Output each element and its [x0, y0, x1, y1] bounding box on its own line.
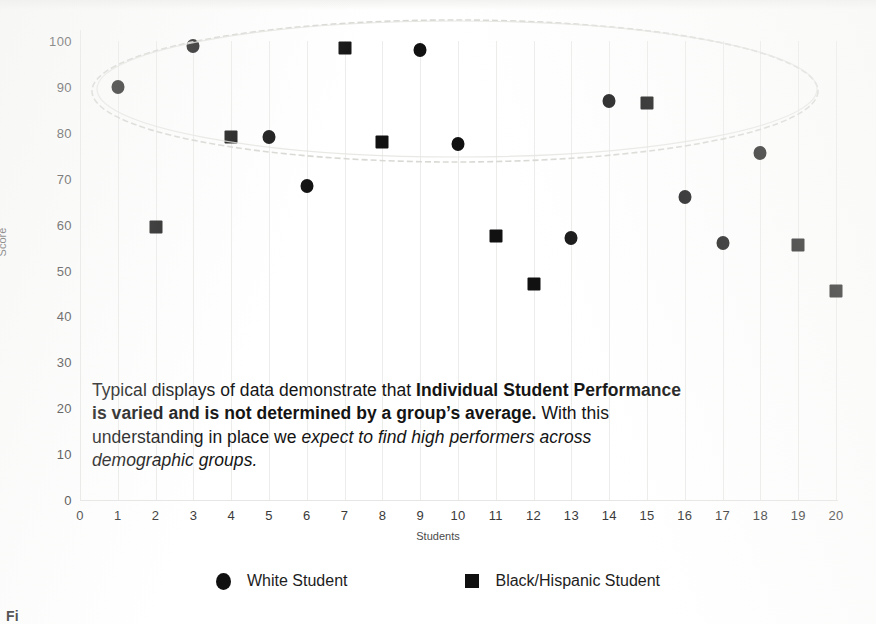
- x-tick-label: 8: [379, 508, 387, 523]
- y-tick-label: 70: [26, 171, 72, 186]
- x-tick-label: 1: [114, 508, 122, 523]
- figure-caption: Fi: [6, 608, 19, 624]
- scatter-chart: 1009080706050403020100 01234567891011121…: [0, 0, 876, 560]
- data-point-square: [527, 278, 540, 291]
- x-tick-label: 7: [341, 508, 349, 523]
- x-tick-label: 0: [76, 508, 84, 523]
- data-point-square: [376, 135, 389, 148]
- y-tick-label: 20: [26, 401, 72, 416]
- y-tick-label: 100: [26, 34, 72, 49]
- x-tick-label: 20: [828, 508, 843, 523]
- gridline-vertical: [836, 41, 837, 500]
- x-tick-label: 10: [450, 508, 465, 523]
- legend-label-white-student: White Student: [247, 572, 348, 590]
- y-tick-label: 30: [26, 355, 72, 370]
- x-tick-label: 11: [489, 508, 503, 523]
- x-tick-label: 17: [715, 508, 730, 523]
- y-tick-label: 10: [26, 447, 72, 462]
- y-tick-label: 80: [26, 125, 72, 140]
- data-point-circle: [300, 179, 313, 193]
- y-axis-title: Score: [0, 228, 8, 257]
- x-tick-label: 19: [791, 508, 806, 523]
- x-tick-label: 9: [416, 508, 424, 523]
- x-tick-label: 15: [639, 508, 654, 523]
- y-tick-label: 60: [26, 217, 72, 232]
- legend-label-black-hispanic-student: Black/Hispanic Student: [495, 572, 660, 590]
- legend-item-white-student[interactable]: White Student: [216, 572, 348, 590]
- page-top-shadow: [0, 0, 876, 10]
- data-point-square: [338, 41, 351, 54]
- y-tick-label: 90: [26, 79, 72, 94]
- y-tick-label: 0: [26, 493, 72, 508]
- data-point-square: [149, 220, 162, 233]
- legend-item-black-hispanic-student[interactable]: Black/Hispanic Student: [465, 572, 660, 590]
- x-tick-label: 13: [564, 508, 579, 523]
- data-point-circle: [565, 231, 578, 245]
- x-axis-title: Students: [0, 530, 876, 542]
- data-point-circle: [716, 236, 729, 250]
- callout-text: Typical displays of data demonstrate tha…: [92, 379, 688, 472]
- square-marker-icon: [465, 574, 479, 588]
- x-tick-label: 5: [265, 508, 273, 523]
- y-axis-line: [80, 30, 81, 501]
- x-tick-label: 4: [227, 508, 235, 523]
- data-point-circle: [111, 80, 124, 94]
- data-point-circle: [754, 146, 767, 160]
- y-axis-ticks: 1009080706050403020100: [0, 0, 72, 560]
- data-point-square: [489, 230, 502, 243]
- gridline-vertical: [723, 41, 724, 500]
- data-point-circle: [452, 137, 465, 151]
- data-point-square: [225, 131, 238, 144]
- x-tick-label: 16: [677, 508, 692, 523]
- x-tick-label: 2: [152, 508, 160, 523]
- x-tick-label: 6: [303, 508, 311, 523]
- circle-marker-icon: [216, 573, 231, 590]
- x-tick-label: 3: [190, 508, 198, 523]
- x-tick-label: 18: [753, 508, 768, 523]
- gridline-vertical: [798, 41, 799, 500]
- y-tick-label: 40: [26, 309, 72, 324]
- chart-legend: White Student Black/Hispanic Student: [0, 572, 876, 590]
- callout-segment-1: Typical displays of data demonstrate tha…: [92, 380, 416, 400]
- data-point-circle: [678, 190, 691, 204]
- y-tick-label: 50: [26, 263, 72, 278]
- x-tick-label: 12: [526, 508, 541, 523]
- data-point-circle: [603, 94, 616, 108]
- x-axis-line: [80, 500, 838, 501]
- data-point-circle: [414, 43, 427, 57]
- data-point-square: [792, 239, 805, 252]
- data-point-square: [830, 285, 843, 298]
- data-point-square: [641, 96, 654, 109]
- data-point-circle: [263, 130, 276, 144]
- x-tick-label: 14: [602, 508, 617, 523]
- data-point-circle: [187, 39, 200, 53]
- gridline-vertical: [760, 41, 761, 500]
